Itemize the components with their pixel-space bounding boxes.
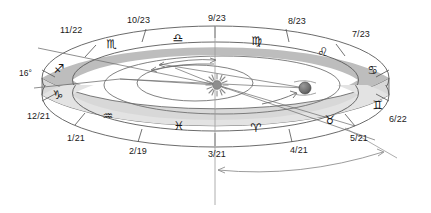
- date-label: 6/22: [389, 114, 407, 124]
- date-label: 8/23: [288, 16, 306, 26]
- zodiac-glyph: ♒: [103, 109, 114, 123]
- date-label: 10/23: [127, 15, 150, 25]
- zodiac-glyph: ♍: [252, 34, 263, 48]
- date-label: 7/23: [352, 29, 370, 39]
- date-label: 5/21: [350, 133, 368, 143]
- zodiac-glyph: ♈: [251, 121, 262, 135]
- zodiac-glyph: ♐: [54, 62, 65, 76]
- zodiac-diagram: ♐ ♏ ♎ ♍ ♌ ♋ ♊ ♉ ♈ ♓ ♒ ♑ 11/22 10/23 9/23…: [0, 0, 431, 213]
- zodiac-glyph: ♊: [373, 98, 384, 112]
- zodiac-glyph: ♎: [173, 31, 184, 45]
- zodiac-glyph: ♑: [53, 88, 64, 102]
- date-label: 9/23: [208, 13, 226, 23]
- date-label: 3/21: [208, 149, 226, 159]
- ring-near-half: [42, 43, 389, 147]
- date-label: 11/22: [60, 25, 82, 35]
- tilt-angle-label: 16°: [19, 68, 32, 78]
- date-label: 1/21: [67, 133, 85, 143]
- date-label: 4/21: [290, 145, 308, 155]
- earth-motion-arrow: [262, 91, 297, 104]
- zodiac-glyph: ♌: [318, 45, 329, 59]
- zodiac-glyph: ♏: [107, 37, 118, 51]
- zodiac-glyph: ♉: [325, 113, 336, 127]
- zodiac-glyph: ♋: [368, 63, 379, 77]
- date-label: 2/19: [129, 146, 147, 156]
- zodiac-glyph: ♓: [174, 119, 185, 133]
- inner-orbit-ellipse: [137, 65, 253, 101]
- sun-icon: [206, 74, 228, 96]
- date-label: 12/21: [27, 111, 50, 121]
